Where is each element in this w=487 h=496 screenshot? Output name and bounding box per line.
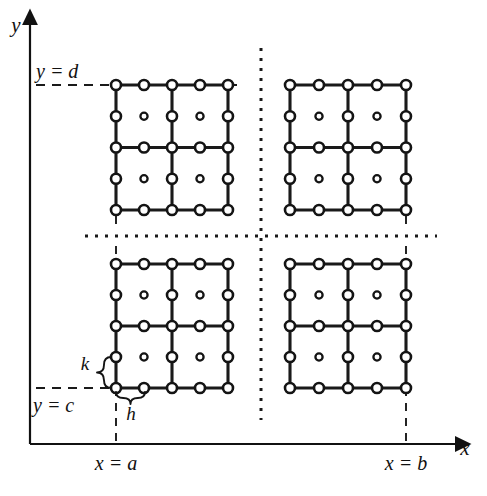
mesh-corner-node <box>167 321 177 331</box>
mesh-midside-node <box>195 205 205 215</box>
mesh-midside-node <box>195 259 205 269</box>
mesh-center-node <box>196 113 203 120</box>
mesh-midside-node <box>314 80 324 90</box>
mesh-midside-node <box>223 290 233 300</box>
mesh-midside-node <box>401 111 411 121</box>
y-axis-arrow-icon <box>22 9 38 26</box>
mesh-center-node <box>315 113 322 120</box>
k-spacing-brace <box>97 357 111 388</box>
mesh-midside-node <box>139 143 149 153</box>
mesh-corner-node <box>343 321 353 331</box>
mesh-midside-node <box>343 111 353 121</box>
mesh-midside-node <box>372 143 382 153</box>
block-top-left <box>111 80 233 215</box>
mesh-center-node <box>140 291 147 298</box>
mesh-corner-node <box>285 259 295 269</box>
mesh-center-node <box>140 353 147 360</box>
block-top-right <box>285 80 411 215</box>
mesh-midside-node <box>139 80 149 90</box>
y-axis-label: y <box>9 13 21 37</box>
mesh-midside-node <box>372 205 382 215</box>
mesh-center-node <box>315 353 322 360</box>
mesh-center-node <box>196 353 203 360</box>
mesh-midside-node <box>139 205 149 215</box>
mesh-midside-node <box>401 352 411 362</box>
mesh-midside-node <box>139 383 149 393</box>
mesh-midside-node <box>195 143 205 153</box>
mesh-midside-node <box>343 290 353 300</box>
mesh-midside-node <box>314 143 324 153</box>
mesh-midside-node <box>223 174 233 184</box>
mesh-center-node <box>373 291 380 298</box>
mesh-midside-node <box>314 321 324 331</box>
block-bottom-right <box>285 259 411 393</box>
mesh-figure-container: y x y = d y = c x = a x = b k h <box>0 0 487 496</box>
mesh-midside-node <box>167 174 177 184</box>
mesh-corner-node <box>111 259 121 269</box>
mesh-corner-node <box>401 80 411 90</box>
mesh-corner-node <box>343 259 353 269</box>
mesh-corner-node <box>401 383 411 393</box>
mesh-corner-node <box>167 80 177 90</box>
mesh-midside-node <box>285 352 295 362</box>
mesh-corner-node <box>401 205 411 215</box>
mesh-corner-node <box>223 80 233 90</box>
mesh-midside-node <box>343 352 353 362</box>
mesh-corner-node <box>223 205 233 215</box>
mesh-corner-node <box>285 321 295 331</box>
mesh-midside-node <box>111 111 121 121</box>
x-axis-label: x <box>459 436 470 460</box>
mesh-midside-node <box>195 383 205 393</box>
mesh-midside-node <box>167 111 177 121</box>
mesh-midside-node <box>401 290 411 300</box>
mesh-midside-node <box>223 352 233 362</box>
mesh-midside-node <box>372 259 382 269</box>
mesh-center-node <box>373 353 380 360</box>
mesh-corner-node <box>111 205 121 215</box>
mesh-corner-node <box>401 259 411 269</box>
label-x-equals-b: x = b <box>384 452 427 474</box>
mesh-midside-node <box>223 111 233 121</box>
mesh-midside-node <box>285 290 295 300</box>
label-x-equals-a: x = a <box>94 452 137 474</box>
block-bottom-left <box>111 259 233 393</box>
mesh-corner-node <box>167 259 177 269</box>
mesh-corner-node <box>285 383 295 393</box>
mesh-corner-node <box>167 143 177 153</box>
mesh-center-node <box>140 175 147 182</box>
mesh-corner-node <box>167 205 177 215</box>
mesh-corner-node <box>401 321 411 331</box>
mesh-center-node <box>196 291 203 298</box>
mesh-corner-node <box>343 80 353 90</box>
mesh-corner-node <box>223 321 233 331</box>
mesh-midside-node <box>195 80 205 90</box>
mesh-corner-node <box>223 143 233 153</box>
mesh-corner-node <box>111 321 121 331</box>
finite-element-mesh-diagram: y x y = d y = c x = a x = b k h <box>0 0 487 496</box>
mesh-center-node <box>315 175 322 182</box>
mesh-midside-node <box>372 383 382 393</box>
mesh-corner-node <box>111 80 121 90</box>
label-k-spacing: k <box>81 353 90 374</box>
mesh-corner-node <box>285 143 295 153</box>
mesh-center-node <box>373 175 380 182</box>
brace-group <box>97 357 145 404</box>
label-h-spacing: h <box>126 403 136 424</box>
mesh-midside-node <box>167 352 177 362</box>
mesh-center-node <box>315 291 322 298</box>
mesh-midside-node <box>401 174 411 184</box>
mesh-center-node <box>373 113 380 120</box>
label-y-equals-c: y = c <box>31 394 74 417</box>
mesh-corner-node <box>343 383 353 393</box>
mesh-midside-node <box>285 111 295 121</box>
mesh-corner-node <box>401 143 411 153</box>
mesh-corner-node <box>343 205 353 215</box>
mesh-midside-node <box>111 290 121 300</box>
mesh-center-node <box>196 175 203 182</box>
mesh-midside-node <box>314 205 324 215</box>
mesh-corner-node <box>223 259 233 269</box>
mesh-midside-node <box>195 321 205 331</box>
mesh-midside-node <box>343 174 353 184</box>
mesh-midside-node <box>111 352 121 362</box>
mesh-midside-node <box>314 259 324 269</box>
